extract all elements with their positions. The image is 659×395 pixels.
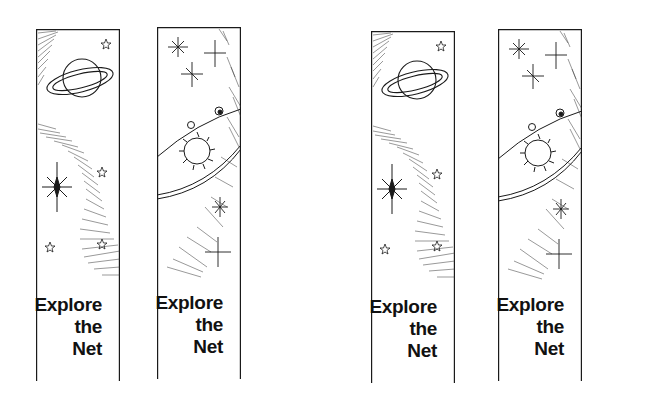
- caption-line: Net: [34, 338, 102, 360]
- caption-line: the: [155, 314, 223, 336]
- caption-line: Explore: [34, 294, 102, 316]
- bookmark-4: ExploretheNet: [498, 29, 582, 381]
- bookmark-3: ExploretheNet: [371, 31, 455, 383]
- caption-line: the: [34, 316, 102, 338]
- saturn-icon: [44, 59, 115, 100]
- sun-icon: [520, 134, 556, 172]
- bookmark-caption: ExploretheNet: [369, 296, 437, 362]
- caption-line: Explore: [155, 292, 223, 314]
- saturn-icon: [379, 61, 450, 102]
- bookmark-2: ExploretheNet: [157, 27, 241, 379]
- bookmark-1: ExploretheNet: [36, 29, 120, 381]
- sun-icon: [179, 132, 215, 170]
- bookmark-caption: ExploretheNet: [34, 294, 102, 360]
- compass-star-icon: [377, 164, 407, 214]
- compass-star-icon: [42, 162, 72, 212]
- bookmark-caption: ExploretheNet: [496, 294, 564, 360]
- bookmark-caption: ExploretheNet: [155, 292, 223, 358]
- caption-line: the: [369, 318, 437, 340]
- caption-line: Net: [369, 340, 437, 362]
- caption-line: Net: [155, 336, 223, 358]
- caption-line: Explore: [496, 294, 564, 316]
- caption-line: Explore: [369, 296, 437, 318]
- caption-line: Net: [496, 338, 564, 360]
- caption-line: the: [496, 316, 564, 338]
